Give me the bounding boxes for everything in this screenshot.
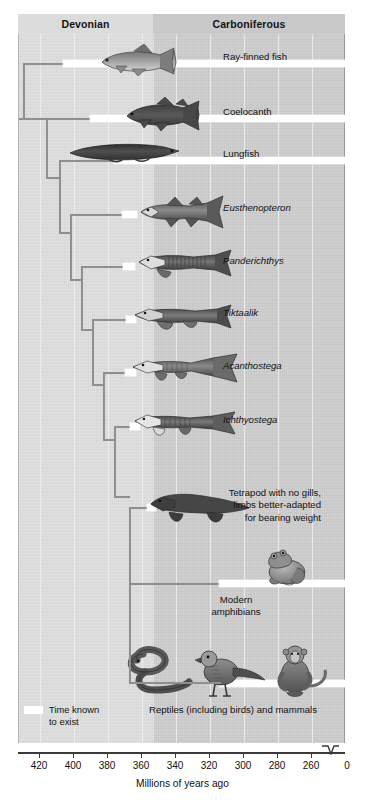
x-axis-tick-380 bbox=[107, 752, 108, 758]
legend-swatch-time-known bbox=[24, 706, 43, 714]
gridline-420 bbox=[40, 34, 41, 743]
legend-label: Time known to exist bbox=[49, 704, 99, 728]
x-axis-title: Millions of years ago bbox=[0, 778, 365, 789]
branch-node-f-vertical bbox=[92, 319, 94, 385]
plot-right-border bbox=[344, 34, 345, 743]
plot-area: Ray-finned fish Coelocanth Lungfish Eust… bbox=[18, 34, 345, 743]
branch-node-e-vertical bbox=[81, 266, 83, 330]
label-coelocanth: Coelocanth bbox=[223, 106, 272, 118]
x-axis-tick-420 bbox=[39, 752, 40, 758]
branch-node-d-vertical bbox=[70, 214, 72, 280]
branch-node-g-vertical bbox=[103, 372, 105, 440]
panderichthys-illustration bbox=[135, 246, 235, 284]
label-tiktaalik: Tiktaalik bbox=[223, 307, 258, 319]
legend-line2: to exist bbox=[49, 716, 79, 727]
branch-node-c-vertical bbox=[59, 160, 61, 233]
label-acanthostega: Acanthostega bbox=[223, 360, 282, 372]
range-bar-panderichthys bbox=[123, 263, 135, 270]
eusthenopteron-illustration bbox=[137, 194, 229, 230]
label-panderichthys: Panderichthys bbox=[223, 255, 284, 267]
branch-to-node-c bbox=[46, 177, 60, 179]
modern-amphibians-frog-illustration bbox=[259, 546, 311, 588]
label-lungfish: Lungfish bbox=[223, 148, 259, 160]
x-axis-tick-280 bbox=[277, 752, 278, 758]
branch-node-b-vertical bbox=[46, 118, 48, 178]
branch-node-i-vertical bbox=[129, 507, 131, 584]
bracket-reptiles-bottom bbox=[129, 682, 221, 684]
period-devonian: Devonian bbox=[18, 14, 153, 34]
coelocanth-illustration bbox=[121, 94, 213, 134]
branch-to-node-b bbox=[23, 118, 47, 120]
label-tetrapod-line2: limbs better-adapted bbox=[234, 499, 321, 510]
legend: Time known to exist bbox=[24, 704, 99, 728]
x-axis-label-400: 400 bbox=[65, 760, 82, 771]
label-eusthenopteron: Eusthenopteron bbox=[223, 202, 291, 214]
branch-to-crown bbox=[129, 583, 219, 585]
x-axis-label-360: 360 bbox=[133, 760, 150, 771]
label-tetrapod-no-gills: Tetrapod with no gills, limbs better-ada… bbox=[205, 487, 321, 524]
label-ray-finned-fish: Ray-finned fish bbox=[223, 51, 287, 63]
lungfish-illustration bbox=[66, 138, 186, 166]
x-axis-label-280: 280 bbox=[269, 760, 286, 771]
phylogeny-figure: Devonian Carboniferous bbox=[0, 0, 365, 800]
label-tetrapod-line1: Tetrapod with no gills, bbox=[229, 487, 321, 498]
range-bar-eusthenopteron bbox=[122, 211, 137, 218]
x-axis-tick-320 bbox=[209, 752, 210, 758]
period-header: Devonian Carboniferous bbox=[18, 14, 345, 35]
branch-to-node-i bbox=[114, 496, 130, 498]
tiktaalik-illustration bbox=[131, 300, 233, 336]
x-axis-label-300: 300 bbox=[235, 760, 252, 771]
label-tetrapod-line3: for bearing weight bbox=[245, 512, 321, 523]
x-axis-tick-300 bbox=[243, 752, 244, 758]
label-modern-amphibians-line1: Modern bbox=[220, 594, 253, 605]
x-axis-tick-400 bbox=[73, 752, 74, 758]
branch-to-eusthenopteron bbox=[70, 214, 122, 216]
x-axis-label-380: 380 bbox=[99, 760, 116, 771]
x-axis-tick-260 bbox=[311, 752, 312, 758]
branch-to-ichthyostega bbox=[114, 426, 130, 428]
gridline-280 bbox=[278, 34, 279, 743]
snake-illustration bbox=[123, 638, 203, 702]
label-reptiles-and-mammals: Reptiles (including birds) and mammals bbox=[149, 704, 317, 716]
branch-to-coelocanth bbox=[46, 118, 90, 120]
x-axis-tick-340 bbox=[175, 752, 176, 758]
mammal-monkey-illustration bbox=[269, 642, 331, 702]
ray-finned-fish-illustration bbox=[94, 42, 194, 78]
branch-node-h-vertical bbox=[114, 426, 116, 497]
x-axis-tick-360 bbox=[141, 752, 142, 758]
branch-to-tiktaalik bbox=[92, 319, 126, 321]
gridline-260 bbox=[312, 34, 313, 743]
branch-to-acanthostega bbox=[103, 372, 125, 374]
bracket-reptiles-left-vertical bbox=[129, 583, 131, 683]
period-carboniferous: Carboniferous bbox=[153, 14, 345, 34]
branch-to-panderichthys bbox=[81, 266, 123, 268]
label-ichthyostega: Ichthyostega bbox=[223, 414, 277, 426]
x-axis-line bbox=[18, 752, 345, 754]
x-axis-label-320: 320 bbox=[201, 760, 218, 771]
x-axis-label-420: 420 bbox=[31, 760, 48, 771]
label-modern-amphibians: Modern amphibians bbox=[205, 594, 267, 619]
branch-node-a-vertical bbox=[23, 63, 25, 119]
gridline-320 bbox=[210, 34, 211, 743]
x-axis-label-340: 340 bbox=[167, 760, 184, 771]
x-axis-label-260: 260 bbox=[303, 760, 320, 771]
branch-to-rayfinned bbox=[23, 63, 63, 65]
bird-illustration bbox=[195, 646, 267, 702]
axis-break-marker bbox=[322, 744, 339, 755]
gridline-300 bbox=[244, 34, 245, 743]
legend-line1: Time known bbox=[49, 704, 99, 715]
label-modern-amphibians-line2: amphibians bbox=[211, 606, 260, 617]
x-axis-label-0: 0 bbox=[344, 760, 350, 771]
